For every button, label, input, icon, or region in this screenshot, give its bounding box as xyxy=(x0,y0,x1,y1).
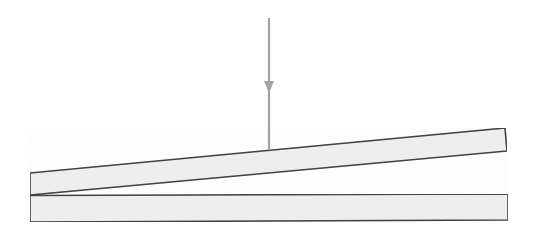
mechanics-diagram xyxy=(0,0,537,241)
figure-root xyxy=(0,0,537,241)
base-plank-shape xyxy=(30,194,508,222)
